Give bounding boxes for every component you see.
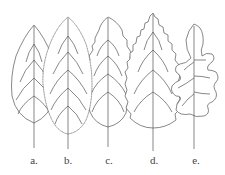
leaf-d: [125, 13, 181, 151]
leaf-diagram: [0, 0, 225, 175]
label-c: c.: [99, 154, 119, 166]
leaf-b: [43, 17, 92, 149]
label-b: b.: [58, 154, 78, 166]
leaf-e: [172, 24, 219, 149]
label-a: a.: [24, 154, 44, 166]
label-e: e.: [186, 154, 206, 166]
label-d: d.: [144, 154, 164, 166]
